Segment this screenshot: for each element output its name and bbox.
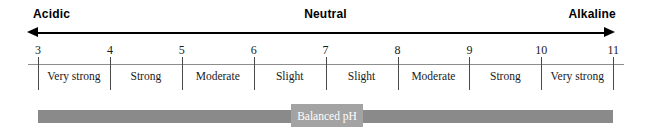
axis-tick-mark xyxy=(469,57,470,90)
axis-tick-label: 11 xyxy=(607,43,619,58)
ph-band-label: Strong xyxy=(490,70,521,82)
ph-band-label: Strong xyxy=(131,70,162,82)
axis-tick-label: 3 xyxy=(35,43,41,58)
axis-tick-label: 10 xyxy=(535,43,547,58)
scale-direction-arrow xyxy=(0,25,651,41)
ph-scale-diagram: Acidic Neutral Alkaline 34567891011 Very… xyxy=(0,0,651,132)
axis-tick-label: 9 xyxy=(466,43,472,58)
arrow-line xyxy=(36,32,607,34)
ph-band-label: Slight xyxy=(276,70,303,82)
axis-tick-mark xyxy=(254,57,255,90)
balanced-ph-badge: Balanced pH xyxy=(291,104,363,127)
balanced-ph-label: Balanced pH xyxy=(297,110,357,122)
axis-tick-label: 5 xyxy=(179,43,185,58)
axis-tick-label: 6 xyxy=(251,43,257,58)
arrow-right-icon xyxy=(604,27,615,37)
ph-band-label: Moderate xyxy=(196,70,240,82)
axis-tick-mark xyxy=(182,57,183,90)
axis-tick-mark xyxy=(38,57,39,90)
axis-tick-mark xyxy=(541,57,542,90)
axis-tick-mark xyxy=(613,57,614,90)
axis-tick-label: 8 xyxy=(395,43,401,58)
axis-tick-mark xyxy=(326,57,327,90)
ph-band-label: Moderate xyxy=(411,70,455,82)
alkaline-label: Alkaline xyxy=(0,7,616,21)
axis-tick-label: 7 xyxy=(323,43,329,58)
ph-band-label: Slight xyxy=(348,70,375,82)
ph-band-label: Very strong xyxy=(551,70,604,82)
axis-tick-mark xyxy=(110,57,111,90)
ph-band-label: Very strong xyxy=(47,70,100,82)
axis-tick-label: 4 xyxy=(107,43,113,58)
axis-tick-mark xyxy=(398,57,399,90)
